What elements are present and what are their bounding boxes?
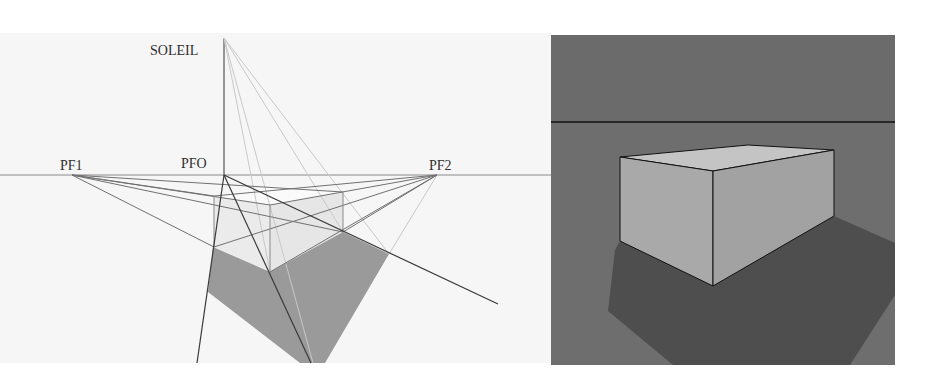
- right-rendered-scene: [551, 35, 895, 365]
- left-construction: SOLEIL PF1 PFO PF2: [0, 38, 551, 363]
- pfo-label: PFO: [181, 156, 207, 171]
- sun-label: SOLEIL: [150, 43, 198, 58]
- pf1-label: PF1: [60, 158, 83, 173]
- pf2-label: PF2: [429, 158, 452, 173]
- perspective-diagram-svg: SOLEIL PF1 PFO PF2: [0, 0, 926, 388]
- sky: [551, 35, 895, 122]
